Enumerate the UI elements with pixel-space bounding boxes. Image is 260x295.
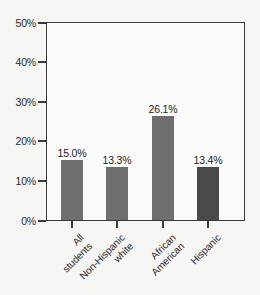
y-axis-label-50: 50% bbox=[0, 18, 36, 29]
bar-all-students bbox=[61, 160, 83, 220]
y-axis-tick-10 bbox=[38, 180, 46, 182]
value-label-non-hispanic-white: 13.3% bbox=[87, 155, 147, 166]
y-axis-label-10: 10% bbox=[0, 176, 36, 187]
category-label-hispanic: Hispanic bbox=[178, 232, 223, 277]
y-axis-label-30: 30% bbox=[0, 97, 36, 108]
y-axis-tick-30 bbox=[38, 101, 46, 103]
x-axis-tick-1 bbox=[116, 221, 118, 228]
y-axis-label-0: 0% bbox=[0, 216, 36, 227]
bar-chart: 0% 10% 20% 30% 40% 50% 15.0% 13.3% 26.1%… bbox=[0, 0, 260, 295]
y-axis-tick-0 bbox=[38, 220, 46, 222]
value-label-african-american: 26.1% bbox=[133, 104, 193, 115]
bar-hispanic bbox=[197, 167, 219, 220]
y-axis-tick-40 bbox=[38, 61, 46, 63]
bar-african-american bbox=[152, 116, 174, 220]
x-axis-tick-3 bbox=[207, 221, 209, 228]
y-axis-label-40: 40% bbox=[0, 57, 36, 68]
category-label-hispanic-line-1: Hispanic bbox=[178, 232, 223, 277]
x-axis-tick-2 bbox=[162, 221, 164, 228]
bar-non-hispanic-white bbox=[106, 167, 128, 220]
y-axis-tick-20 bbox=[38, 140, 46, 142]
value-label-hispanic: 13.4% bbox=[178, 155, 238, 166]
category-label-african-american: African American bbox=[128, 232, 187, 291]
x-axis-tick-0 bbox=[71, 221, 73, 228]
y-axis-tick-50 bbox=[38, 22, 46, 24]
y-axis-label-20: 20% bbox=[0, 136, 36, 147]
